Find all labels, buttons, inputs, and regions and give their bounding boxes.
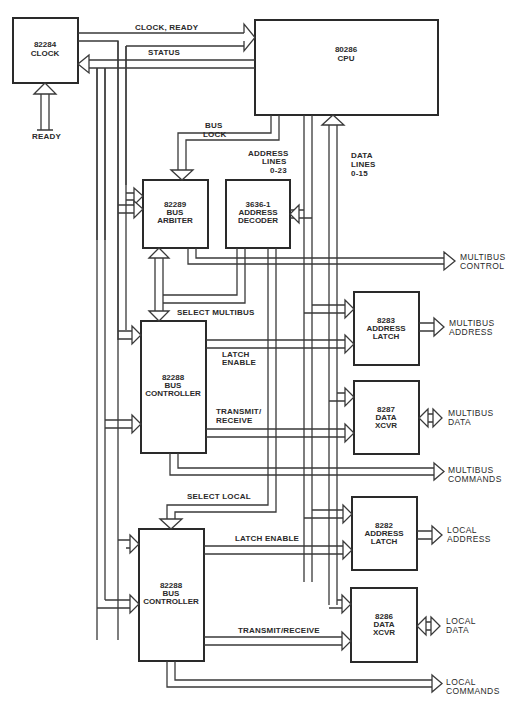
label-bus-lock-2: LOCK	[203, 130, 226, 139]
label-select-multibus: SELECT MULTIBUS	[177, 308, 255, 317]
label-address-lines-3: 0-23	[270, 166, 287, 175]
block-82288-multibus-controller: 82288 BUS CONTROLLER	[141, 321, 206, 453]
bus-latch-enable-local	[204, 541, 352, 559]
label-bus-lock-1: BUS	[205, 121, 223, 130]
svg-text:82284: 82284	[34, 40, 57, 49]
block-82288-local-controller: 82288 BUS CONTROLLER	[139, 529, 204, 661]
bus-multibus-control	[188, 248, 455, 270]
bus-multibus-data	[419, 409, 442, 427]
arbiter-controller-link	[149, 248, 169, 321]
label-multibus-control-2: CONTROL	[460, 261, 504, 271]
label-latch-enable-2: ENABLE	[222, 358, 257, 367]
label-data-lines-3: 0-15	[351, 169, 368, 178]
svg-text:CPU: CPU	[338, 54, 355, 63]
label-transmit-receive-local: TRANSMIT/RECEIVE	[238, 626, 320, 635]
svg-text:DECODER: DECODER	[238, 216, 278, 225]
svg-text:LATCH: LATCH	[371, 537, 398, 546]
label-latch-enable-local: LATCH ENABLE	[235, 534, 299, 543]
bus-local-data	[417, 617, 440, 635]
block-8286-data-xcvr: 8286 DATA XCVR	[351, 588, 417, 662]
block-diagram: 82284 CLOCK 80286 CPU 82289 BUS ARBITER …	[0, 0, 511, 710]
label-clock-ready: CLOCK, READY	[135, 23, 199, 32]
label-select-local: SELECT LOCAL	[187, 492, 251, 501]
block-3636-address-decoder: 3636-1 ADDRESS DECODER	[226, 180, 290, 248]
bus-transmit-receive-multibus	[206, 424, 354, 442]
label-multibus-address-2: ADDRESS	[449, 327, 493, 337]
bus-local-commands	[167, 661, 442, 692]
svg-text:CLOCK: CLOCK	[31, 49, 60, 58]
label-local-data-2: DATA	[446, 625, 469, 635]
svg-text:LATCH: LATCH	[373, 332, 400, 341]
label-transmit-receive-1: TRANSMIT/	[216, 407, 262, 416]
bus-lock	[171, 115, 279, 180]
label-data-lines-2: LINES	[351, 160, 376, 169]
bus-local-address-out	[417, 526, 442, 544]
svg-text:XCVR: XCVR	[373, 628, 395, 637]
block-8287-data-xcvr: 8287 DATA XCVR	[354, 381, 419, 454]
svg-text:CONTROLLER: CONTROLLER	[143, 597, 199, 606]
label-data-lines-1: DATA	[351, 151, 373, 160]
label-status: STATUS	[148, 48, 180, 57]
block-80286-cpu: 80286 CPU	[255, 20, 438, 115]
bus-multibus-commands	[170, 453, 444, 480]
label-address-lines-2: LINES	[262, 157, 287, 166]
label-multibus-data-2: DATA	[448, 417, 471, 427]
block-8282-address-latch: 8282 ADDRESS LATCH	[352, 497, 417, 570]
block-82284-clock: 82284 CLOCK	[13, 18, 78, 83]
label-multibus-commands-2: COMMANDS	[448, 474, 502, 484]
label-local-commands-2: COMMANDS	[446, 686, 500, 696]
label-transmit-receive-2: RECEIVE	[216, 416, 253, 425]
bus-multibus-address-out	[419, 318, 444, 336]
label-local-address-2: ADDRESS	[447, 534, 491, 544]
ready-input-arrow	[34, 83, 56, 130]
label-ready: READY	[32, 132, 61, 141]
block-8283-address-latch: 8283 ADDRESS LATCH	[354, 292, 419, 365]
svg-text:ARBITER: ARBITER	[157, 216, 193, 225]
bus-left-verticals	[97, 41, 143, 640]
svg-text:80286: 80286	[335, 45, 358, 54]
svg-text:XCVR: XCVR	[375, 421, 397, 430]
bus-data-lines	[322, 115, 354, 613]
svg-text:CONTROLLER: CONTROLLER	[145, 389, 201, 398]
block-82289-bus-arbiter: 82289 BUS ARBITER	[143, 180, 208, 248]
bus-select-multibus	[163, 248, 245, 303]
decoder-outputs	[268, 248, 276, 475]
